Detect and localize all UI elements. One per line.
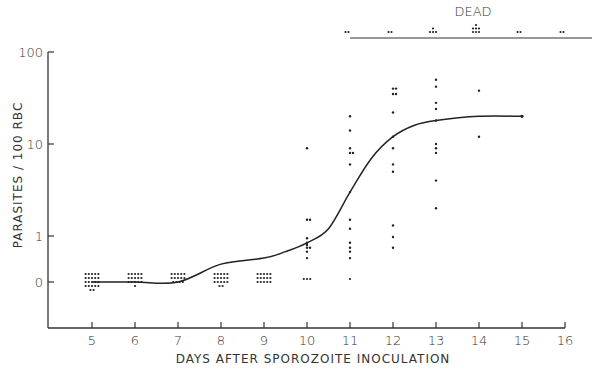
data-point xyxy=(91,281,93,283)
data-point xyxy=(257,281,259,283)
dead-marker xyxy=(429,31,431,33)
dead-marker xyxy=(475,24,477,26)
data-point xyxy=(94,281,96,283)
data-point xyxy=(220,273,222,275)
data-point xyxy=(435,119,437,121)
data-point xyxy=(349,278,351,280)
data-point xyxy=(266,281,268,283)
y-tick-label: 10 xyxy=(26,137,43,152)
dead-marker xyxy=(559,31,561,33)
data-point xyxy=(266,273,268,275)
data-point xyxy=(217,277,219,279)
data-point xyxy=(85,273,87,275)
data-point xyxy=(128,281,130,283)
data-point xyxy=(88,277,90,279)
data-point xyxy=(263,281,265,283)
x-axis-title: DAYS AFTER SPOROZOITE INOCULATION xyxy=(176,352,451,366)
data-point xyxy=(435,85,437,87)
dead-marker xyxy=(347,31,349,33)
y-axis-title: PARASITES / 100 RBC xyxy=(11,102,25,249)
dead-marker xyxy=(562,31,564,33)
data-point xyxy=(392,87,394,89)
data-point xyxy=(180,277,182,279)
data-point xyxy=(137,281,139,283)
data-point xyxy=(179,281,181,283)
data-point xyxy=(134,277,136,279)
data-point xyxy=(174,277,176,279)
data-point xyxy=(349,228,351,230)
data-point xyxy=(94,273,96,275)
data-point xyxy=(392,163,394,165)
data-point xyxy=(309,247,311,249)
data-point xyxy=(260,277,262,279)
data-point xyxy=(174,273,176,275)
data-point xyxy=(435,207,437,209)
data-point xyxy=(269,277,271,279)
dead-marker xyxy=(472,31,474,33)
data-point xyxy=(435,179,437,181)
data-point xyxy=(222,285,224,287)
data-point xyxy=(269,281,271,283)
data-point xyxy=(309,219,311,221)
data-point xyxy=(97,273,99,275)
data-point xyxy=(306,147,308,149)
data-point xyxy=(260,281,262,283)
data-point xyxy=(91,285,93,287)
data-point xyxy=(306,247,308,249)
data-point xyxy=(171,277,173,279)
dead-marker xyxy=(475,27,477,29)
y-tick-label: 100 xyxy=(18,45,43,60)
dead-marker xyxy=(432,27,434,29)
data-point xyxy=(218,285,220,287)
data-point xyxy=(140,277,142,279)
data-point xyxy=(257,273,259,275)
axes: 10010105678910111213141516 xyxy=(18,45,573,348)
data-point xyxy=(85,281,87,283)
data-point xyxy=(306,242,308,244)
x-tick-label: 6 xyxy=(131,333,139,348)
data-point xyxy=(171,273,173,275)
y-tick-label: 0 xyxy=(35,275,43,290)
data-point xyxy=(349,219,351,221)
data-point xyxy=(93,289,95,291)
data-point xyxy=(392,247,394,249)
dead-marker xyxy=(387,31,389,33)
data-point xyxy=(128,277,130,279)
data-point xyxy=(137,273,139,275)
dead-annotation: DEAD xyxy=(344,4,592,38)
data-point xyxy=(269,273,271,275)
data-point xyxy=(131,273,133,275)
data-point xyxy=(257,277,259,279)
x-tick-label: 7 xyxy=(174,333,182,348)
data-point xyxy=(306,278,308,280)
data-point xyxy=(392,111,394,113)
dead-marker xyxy=(516,31,518,33)
data-point xyxy=(349,163,351,165)
data-point xyxy=(134,281,136,283)
data-point xyxy=(306,257,308,259)
data-points xyxy=(85,78,481,291)
data-point xyxy=(435,108,437,110)
data-point xyxy=(395,87,397,89)
data-point xyxy=(172,281,174,283)
y-tick-label: 1 xyxy=(35,229,43,244)
data-point xyxy=(392,224,394,226)
data-point xyxy=(183,273,185,275)
dead-marker xyxy=(390,31,392,33)
data-point xyxy=(214,273,216,275)
data-point xyxy=(134,285,136,287)
x-tick-label: 12 xyxy=(385,333,402,348)
data-point xyxy=(395,93,397,95)
data-point xyxy=(137,277,139,279)
data-point xyxy=(478,89,480,91)
data-point xyxy=(263,273,265,275)
data-point xyxy=(91,277,93,279)
data-point xyxy=(85,285,87,287)
data-point xyxy=(217,281,219,283)
x-tick-label: 5 xyxy=(88,333,96,348)
dead-marker xyxy=(519,31,521,33)
x-tick-label: 8 xyxy=(217,333,225,348)
data-point xyxy=(220,281,222,283)
data-point xyxy=(88,281,90,283)
dead-marker xyxy=(478,31,480,33)
